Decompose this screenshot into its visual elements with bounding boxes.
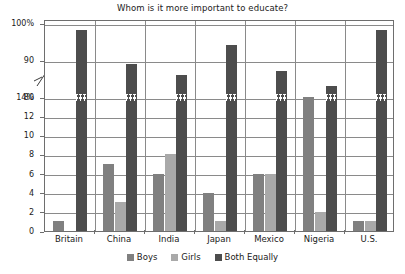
y-axis-tick-label: 0 xyxy=(29,228,34,236)
bar xyxy=(103,164,114,231)
bar-break-notch xyxy=(276,94,287,101)
y-axis-tick-label: 8 xyxy=(29,151,34,159)
x-axis-tick-mark xyxy=(144,230,145,234)
bar xyxy=(126,64,137,231)
bar xyxy=(153,174,164,231)
bar xyxy=(203,193,214,231)
bar xyxy=(176,75,187,231)
x-axis-tick-label: Britain xyxy=(55,234,83,244)
gridline xyxy=(45,194,393,195)
gridline xyxy=(45,25,393,26)
x-axis-tick-mark xyxy=(94,230,95,234)
legend-label: Both Equally xyxy=(225,252,279,262)
bar xyxy=(376,30,387,231)
x-axis-tick-mark xyxy=(194,230,195,234)
gridline xyxy=(45,99,393,100)
x-axis-tick-label: Nigeria xyxy=(304,234,334,244)
bar xyxy=(165,154,176,231)
bar-break-notch xyxy=(76,94,87,101)
gridline xyxy=(45,118,393,119)
legend-swatch-icon xyxy=(127,254,134,261)
x-axis-tick-label: Japan xyxy=(207,234,231,244)
bar xyxy=(326,86,337,231)
y-axis-tick-label: 14% xyxy=(16,94,34,102)
bar-break-notch xyxy=(376,94,387,101)
bar-chart: Whom is it more important to educate? 10… xyxy=(0,0,405,274)
group-separator xyxy=(95,21,96,231)
group-separator xyxy=(345,21,346,231)
x-axis-tick-label: U.S. xyxy=(360,234,377,244)
bar xyxy=(226,45,237,231)
bar xyxy=(315,212,326,231)
group-separator xyxy=(145,21,146,231)
gridline xyxy=(45,137,393,138)
y-axis-tick-label: 6 xyxy=(29,171,34,179)
y-axis-tick-label: 100% xyxy=(11,20,34,28)
bar-break-notch xyxy=(226,94,237,101)
legend-item[interactable]: Both Equally xyxy=(215,252,279,262)
bar xyxy=(53,221,64,231)
bar-break-notch xyxy=(326,94,337,101)
legend-swatch-icon xyxy=(215,254,222,261)
group-separator xyxy=(245,21,246,231)
y-axis-tick-label: 12 xyxy=(24,113,34,121)
bar xyxy=(115,202,126,231)
x-axis-tick-label: Mexico xyxy=(254,234,284,244)
legend-label: Boys xyxy=(137,252,158,262)
y-axis-tick-label: 4 xyxy=(29,190,34,198)
bar xyxy=(253,174,264,231)
bar xyxy=(353,221,364,231)
chart-title: Whom is it more important to educate? xyxy=(0,3,405,13)
bar xyxy=(303,97,314,231)
x-axis-tick-mark xyxy=(294,230,295,234)
bar xyxy=(215,221,226,231)
x-axis-tick-label: China xyxy=(107,234,131,244)
legend-label: Girls xyxy=(181,252,200,262)
x-axis-tick-mark xyxy=(344,230,345,234)
y-axis: 100%908014%121086420 xyxy=(0,20,40,232)
legend-item[interactable]: Girls xyxy=(171,252,200,262)
bar xyxy=(76,30,87,231)
gridline xyxy=(45,156,393,157)
chart-legend: BoysGirlsBoth Equally xyxy=(0,252,405,262)
legend-swatch-icon xyxy=(171,254,178,261)
y-axis-tick-label: 90 xyxy=(24,57,34,65)
x-axis-tick-label: India xyxy=(159,234,180,244)
x-axis-tick-mark xyxy=(244,230,245,234)
bar xyxy=(265,174,276,231)
bar xyxy=(365,221,376,231)
bar xyxy=(276,71,287,231)
gridline xyxy=(45,213,393,214)
bar-break-notch xyxy=(126,94,137,101)
bar-break-notch xyxy=(176,94,187,101)
gridline xyxy=(45,175,393,176)
group-separator xyxy=(295,21,296,231)
y-axis-tick-label: 2 xyxy=(29,209,34,217)
plot-area xyxy=(44,20,394,232)
x-axis: BritainChinaIndiaJapanMexicoNigeriaU.S. xyxy=(44,234,394,248)
gridline xyxy=(45,62,393,63)
legend-item[interactable]: Boys xyxy=(127,252,158,262)
y-axis-tick-label: 10 xyxy=(24,132,34,140)
group-separator xyxy=(195,21,196,231)
